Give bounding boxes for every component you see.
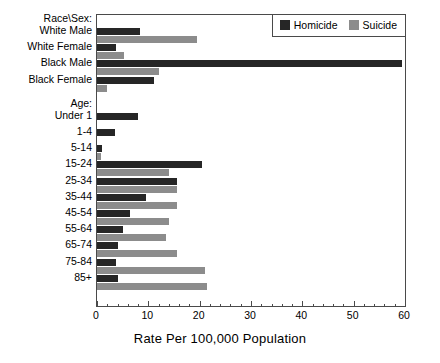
- x-tick-major: [200, 301, 201, 307]
- bar-homicide: [97, 178, 177, 185]
- x-tick-minor: [241, 304, 242, 307]
- x-tick-major: [302, 301, 303, 307]
- category-label: 15-24: [0, 158, 92, 169]
- x-tick-label: 10: [127, 309, 167, 321]
- x-tick-label: 30: [230, 309, 270, 321]
- category-label: Under 1: [0, 110, 92, 121]
- bar-group: [97, 145, 405, 160]
- bar-suicide: [97, 218, 169, 225]
- x-tick-minor: [159, 304, 160, 307]
- bar-homicide: [97, 129, 115, 136]
- x-tick-minor: [323, 304, 324, 307]
- plot-area: Homicide Suicide: [96, 14, 406, 307]
- category-label: 65-74: [0, 239, 92, 250]
- category-label: 85+: [0, 272, 92, 283]
- bar-homicide: [97, 275, 118, 282]
- x-tick-minor: [230, 304, 231, 307]
- bar-group: [97, 28, 405, 43]
- bar-homicide: [97, 145, 102, 152]
- x-tick-minor: [179, 304, 180, 307]
- bar-suicide: [97, 52, 124, 59]
- bar-group: [97, 226, 405, 241]
- x-tick-minor: [272, 304, 273, 307]
- bar-group: [97, 60, 405, 75]
- x-tick-minor: [128, 304, 129, 307]
- x-tick-minor: [395, 304, 396, 307]
- category-label: 1-4: [0, 126, 92, 137]
- x-tick-minor: [384, 304, 385, 307]
- category-label: White Female: [0, 41, 92, 52]
- bar-group: [97, 194, 405, 209]
- bar-group: [97, 129, 405, 144]
- x-tick-minor: [189, 304, 190, 307]
- x-tick-minor: [220, 304, 221, 307]
- bar-group: [97, 178, 405, 193]
- bar-group: [97, 113, 405, 128]
- x-tick-label: 40: [281, 309, 321, 321]
- bar-homicide: [97, 161, 202, 168]
- x-tick-minor: [313, 304, 314, 307]
- bar-homicide: [97, 242, 118, 249]
- group-heading: Race\Sex:: [0, 13, 92, 24]
- x-tick-major: [97, 301, 98, 307]
- x-tick-minor: [138, 304, 139, 307]
- category-label: 25-34: [0, 175, 92, 186]
- bar-group: [97, 275, 405, 290]
- x-tick-minor: [210, 304, 211, 307]
- bar-suicide: [97, 153, 101, 160]
- category-label: 45-54: [0, 207, 92, 218]
- bar-homicide: [97, 44, 116, 51]
- x-tick-minor: [118, 304, 119, 307]
- category-label: 35-44: [0, 191, 92, 202]
- x-tick-minor: [343, 304, 344, 307]
- bar-homicide: [97, 259, 116, 266]
- bar-homicide: [97, 60, 402, 67]
- bar-suicide: [97, 85, 107, 92]
- x-tick-label: 50: [333, 309, 373, 321]
- bar-group: [97, 77, 405, 92]
- bar-suicide: [97, 169, 169, 176]
- bar-suicide: [97, 267, 205, 274]
- bar-homicide: [97, 226, 123, 233]
- x-tick-major: [251, 301, 252, 307]
- x-tick-major: [354, 301, 355, 307]
- category-label: Black Female: [0, 74, 92, 85]
- x-tick-label: 60: [384, 309, 424, 321]
- bar-group: [97, 44, 405, 59]
- bar-homicide: [97, 28, 140, 35]
- x-tick-minor: [374, 304, 375, 307]
- category-label: 5-14: [0, 142, 92, 153]
- bar-group: [97, 210, 405, 225]
- x-tick-minor: [169, 304, 170, 307]
- x-axis-title: Rate Per 100,000 Population: [0, 331, 440, 346]
- group-heading: Age:: [0, 98, 92, 109]
- x-tick-minor: [292, 304, 293, 307]
- chart-container: Homicide Suicide Race\Sex:Age:White Male…: [0, 0, 440, 363]
- bar-homicide: [97, 113, 138, 120]
- category-label: 75-84: [0, 256, 92, 267]
- bar-homicide: [97, 77, 154, 84]
- bar-group: [97, 242, 405, 257]
- bar-suicide: [97, 68, 159, 75]
- bar-suicide: [97, 36, 197, 43]
- bar-suicide: [97, 202, 177, 209]
- bar-suicide: [97, 186, 177, 193]
- x-tick-minor: [333, 304, 334, 307]
- x-tick-minor: [282, 304, 283, 307]
- x-tick-minor: [107, 304, 108, 307]
- x-tick-major: [405, 301, 406, 307]
- bar-suicide: [97, 250, 177, 257]
- x-tick-minor: [261, 304, 262, 307]
- bar-suicide: [97, 283, 207, 290]
- category-label: 55-64: [0, 223, 92, 234]
- bar-homicide: [97, 210, 130, 217]
- bar-group: [97, 161, 405, 176]
- x-tick-minor: [364, 304, 365, 307]
- x-tick-major: [148, 301, 149, 307]
- category-label: Black Male: [0, 57, 92, 68]
- x-tick-label: 0: [76, 309, 116, 321]
- x-tick-label: 20: [179, 309, 219, 321]
- category-label: White Male: [0, 25, 92, 36]
- bar-homicide: [97, 194, 146, 201]
- bar-suicide: [97, 234, 166, 241]
